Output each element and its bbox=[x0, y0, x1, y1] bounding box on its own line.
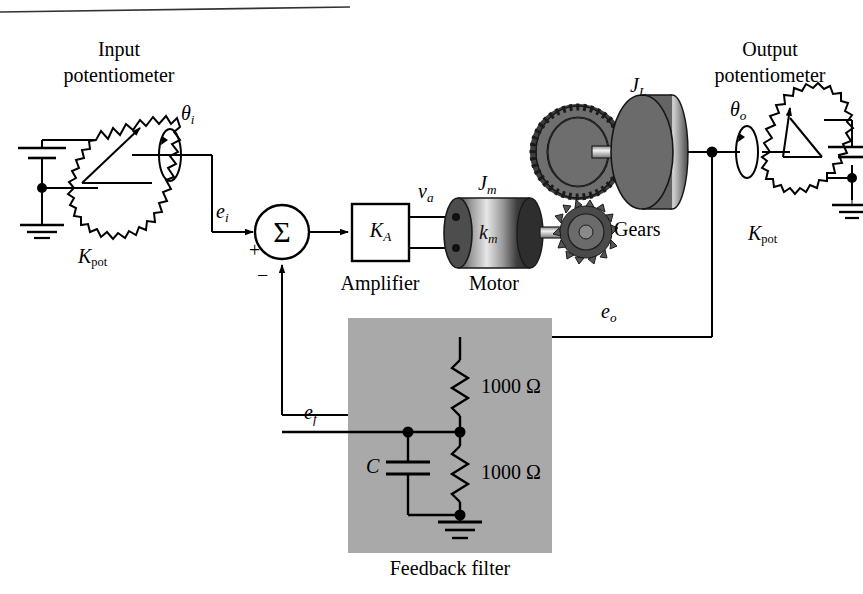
gears-caption: Gears bbox=[614, 218, 661, 241]
output-pot-gain-sub: pot bbox=[761, 232, 777, 246]
va-symbol: v bbox=[418, 180, 427, 202]
theta-i-label: θi bbox=[181, 102, 195, 128]
resistor-top-value: 1000 Ω bbox=[481, 375, 541, 398]
figure-canvas: Input potentiometer Kpot θi ei Σ + − KA … bbox=[0, 0, 863, 594]
eo-sub: o bbox=[610, 310, 617, 325]
ei-sub: i bbox=[225, 210, 229, 225]
summing-junction-symbol: Σ bbox=[262, 215, 302, 249]
load-inertia-label: JL bbox=[630, 74, 646, 100]
schematic-drawing bbox=[0, 0, 863, 594]
load-inertia-j: J bbox=[630, 74, 639, 96]
amplifier-caption: Amplifier bbox=[330, 272, 430, 295]
theta-o-symbol: θ bbox=[730, 98, 740, 120]
motor-inertia-label: Jm bbox=[478, 172, 496, 198]
va-label: va bbox=[418, 180, 433, 206]
input-pot-gain-label: Kpot bbox=[78, 245, 107, 270]
summing-junction-plus: + bbox=[249, 239, 260, 262]
summing-junction-minus: − bbox=[257, 264, 268, 287]
output-potentiometer-title-line2: potentiometer bbox=[664, 64, 863, 87]
filter-cap-node-dot bbox=[403, 427, 414, 438]
amplifier-gain-sub: A bbox=[383, 229, 391, 244]
output-pot-gain-k: K bbox=[748, 222, 761, 244]
motor-constant-k: k bbox=[479, 221, 488, 243]
input-pot-gain-sub: pot bbox=[91, 255, 107, 269]
ef-label: ef bbox=[304, 401, 317, 427]
motor-caption: Motor bbox=[444, 272, 544, 295]
pinion-gear bbox=[553, 200, 618, 264]
feedback-filter-box bbox=[348, 318, 552, 553]
output-pot-ground bbox=[832, 178, 863, 218]
theta-i-symbol: θ bbox=[181, 102, 191, 124]
motor-constant-sub: m bbox=[488, 231, 498, 246]
amplifier-gain-k: K bbox=[370, 219, 383, 241]
feedback-filter-caption: Feedback filter bbox=[350, 557, 550, 580]
eo-symbol: e bbox=[601, 300, 610, 322]
ei-label: ei bbox=[216, 200, 229, 226]
top-rule bbox=[0, 7, 350, 12]
amplifier-gain-label: KA bbox=[352, 219, 409, 245]
theta-o-label: θo bbox=[730, 98, 746, 124]
output-pot-gain-label: Kpot bbox=[748, 222, 777, 247]
theta-o-sub: o bbox=[740, 108, 747, 123]
resistor-bottom-value: 1000 Ω bbox=[481, 461, 541, 484]
filter-ground-node-dot bbox=[455, 510, 466, 521]
motor-inertia-sub: m bbox=[487, 182, 497, 197]
input-pot-gain-k: K bbox=[78, 245, 91, 267]
output-potentiometer-title-line1: Output bbox=[690, 38, 850, 61]
motor-inertia-j: J bbox=[478, 172, 487, 194]
load-disc bbox=[611, 95, 688, 209]
input-pot-node-dot bbox=[37, 183, 47, 193]
va-sub: a bbox=[427, 190, 434, 205]
input-potentiometer-title-line1: Input bbox=[24, 38, 214, 61]
motor-constant-label: km bbox=[479, 221, 497, 247]
ef-symbol: e bbox=[304, 401, 313, 423]
capacitor-label: C bbox=[366, 455, 379, 478]
ef-sub: f bbox=[313, 411, 317, 426]
eo-label: eo bbox=[601, 300, 616, 326]
load-inertia-sub: L bbox=[639, 84, 646, 99]
ei-symbol: e bbox=[216, 200, 225, 222]
input-potentiometer-title-line2: potentiometer bbox=[14, 64, 224, 87]
theta-i-sub: i bbox=[191, 112, 195, 127]
filter-mid-node-dot bbox=[455, 427, 466, 438]
